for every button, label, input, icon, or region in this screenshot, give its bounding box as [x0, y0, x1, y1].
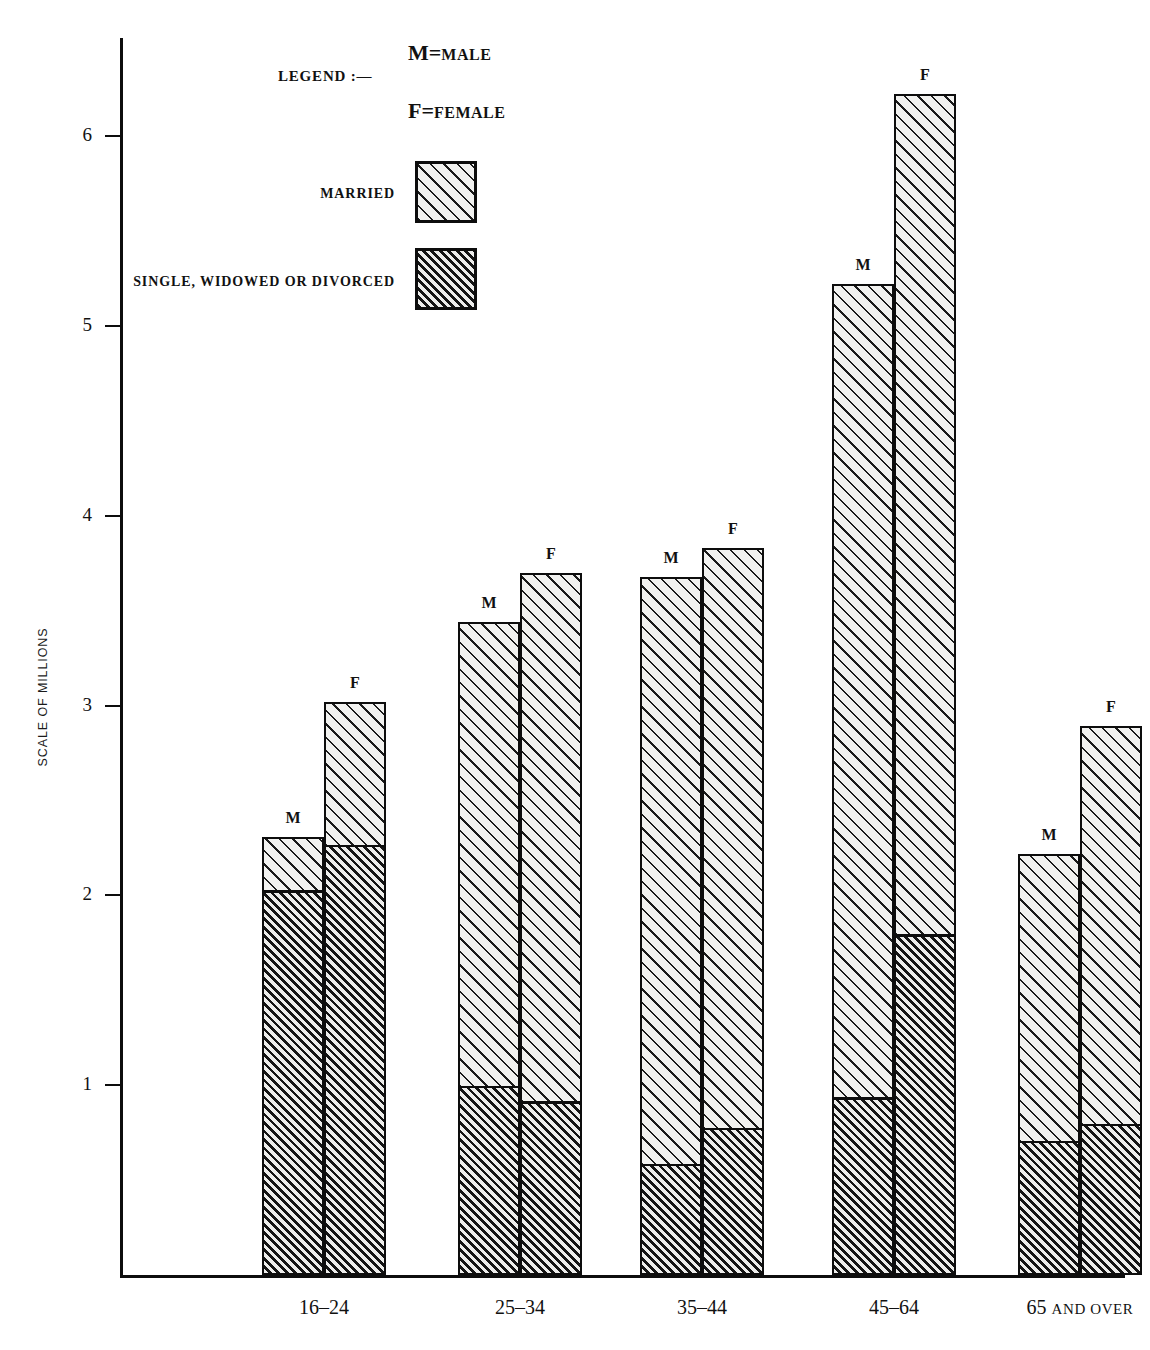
bar-segment-single-widowed-divorced	[834, 1099, 892, 1275]
bar-segment-single-widowed-divorced	[642, 1165, 700, 1275]
bar-sex-letter: F	[324, 674, 386, 692]
bar-segment-married	[642, 579, 700, 1165]
y-tick-mark	[105, 135, 121, 137]
bar-segment-single-widowed-divorced	[264, 892, 322, 1275]
bar-segment-divider	[460, 1086, 518, 1089]
bar	[262, 837, 324, 1275]
legend-swatch-married	[415, 161, 477, 223]
bar-segment-married	[522, 575, 580, 1103]
bar	[640, 577, 702, 1275]
bar	[1080, 726, 1142, 1275]
y-tick-label: 6	[52, 124, 92, 146]
y-tick-label: 4	[52, 504, 92, 526]
bar-segment-married	[896, 96, 954, 935]
bar	[894, 94, 956, 1275]
bar-segment-single-widowed-divorced	[460, 1087, 518, 1275]
y-tick-mark	[105, 705, 121, 707]
legend-male-word: MALE	[441, 46, 491, 63]
bar-segment-divider	[642, 1164, 700, 1167]
legend-male-equals: =	[429, 40, 442, 65]
bar-segment-single-widowed-divorced	[522, 1102, 580, 1275]
bar-segment-divider	[264, 890, 322, 893]
bar-segment-married	[460, 624, 518, 1087]
x-axis-category-label: 16–24	[218, 1296, 430, 1319]
bar-segment-married	[1082, 728, 1140, 1125]
bar-sex-letter: M	[262, 809, 324, 827]
y-tick-mark	[105, 894, 121, 896]
y-tick-label: 2	[52, 883, 92, 905]
bar	[324, 702, 386, 1275]
bar-sex-letter: F	[1080, 698, 1142, 716]
bar-segment-married	[1020, 856, 1078, 1143]
bar	[702, 548, 764, 1275]
bar-sex-letter: M	[1018, 826, 1080, 844]
bar-segment-single-widowed-divorced	[896, 935, 954, 1275]
y-tick-mark	[105, 515, 121, 517]
legend-female-word: FEMALE	[434, 104, 505, 121]
bar-segment-divider	[1082, 1124, 1140, 1127]
bar-sex-letter: F	[520, 545, 582, 563]
bar-segment-married	[704, 550, 762, 1129]
x-axis-line	[120, 1275, 1125, 1278]
bar	[458, 622, 520, 1275]
bar-segment-married	[834, 286, 892, 1098]
bar-sex-letter: M	[458, 594, 520, 612]
legend-key-label-single: SINGLE, WIDOWED OR DIVORCED	[100, 274, 395, 290]
legend-swatch-single	[415, 248, 477, 310]
legend-title: LEGEND :—	[278, 68, 372, 85]
y-tick-mark	[105, 325, 121, 327]
legend-male-abbreviation: M=MALE	[408, 40, 491, 66]
bar-sex-letter: M	[832, 256, 894, 274]
bar	[1018, 854, 1080, 1275]
x-axis-category-label: 35–44	[596, 1296, 808, 1319]
bar-chart: SCALE OF MILLIONS 654321 MFMFMFMFMF 16–2…	[0, 0, 1150, 1350]
bar-segment-single-widowed-divorced	[1082, 1125, 1140, 1275]
x-axis-category-label: 45–64	[788, 1296, 1000, 1319]
y-axis-title: SCALE OF MILLIONS	[36, 627, 50, 767]
y-tick-label: 5	[52, 314, 92, 336]
bar-segment-divider	[326, 845, 384, 848]
legend-female-glyph: F	[408, 98, 421, 123]
bar	[832, 284, 894, 1275]
legend-male-glyph: M	[408, 40, 429, 65]
y-tick-mark	[105, 1084, 121, 1086]
x-axis-category-label: 65 AND OVER	[974, 1296, 1150, 1319]
bar-sex-letter: F	[702, 520, 764, 538]
bar-segment-single-widowed-divorced	[1020, 1142, 1078, 1275]
bar-segment-divider	[704, 1128, 762, 1131]
bar-sex-letter: M	[640, 549, 702, 567]
legend-key-label-married: MARRIED	[200, 186, 395, 202]
bar-segment-single-widowed-divorced	[326, 846, 384, 1275]
bar-segment-divider	[834, 1097, 892, 1100]
bar-sex-letter: F	[894, 66, 956, 84]
y-tick-label: 1	[52, 1073, 92, 1095]
y-tick-label: 3	[52, 694, 92, 716]
bar-segment-divider	[1020, 1141, 1078, 1144]
bar-segment-married	[264, 839, 322, 892]
bar-segment-divider	[522, 1101, 580, 1104]
bar-segment-divider	[896, 934, 954, 937]
legend-female-equals: =	[421, 98, 434, 123]
bar-segment-single-widowed-divorced	[704, 1129, 762, 1275]
y-axis-line	[120, 38, 123, 1278]
bar	[520, 573, 582, 1275]
legend-female-abbreviation: F=FEMALE	[408, 98, 505, 124]
bar-segment-married	[326, 704, 384, 846]
x-axis-category-label: 25–34	[414, 1296, 626, 1319]
